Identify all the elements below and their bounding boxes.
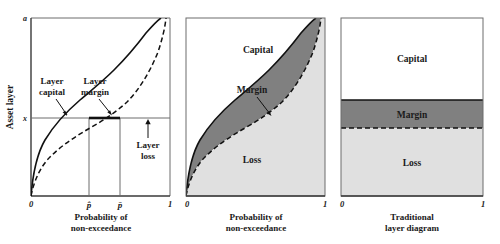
panel1-y-tick-a: a [23,14,27,23]
panel1-annot-layer-loss-line2: loss [141,151,156,161]
panel1-y-axis-label: Asset layer [5,84,15,129]
panel2-label-capital: Capital [243,45,273,55]
panel1-annot-layer-margin-line2: margin [81,87,109,97]
panel1-annot-layer-capital-line2: capital [39,87,65,97]
panel1-x-tick-phat: p̂ [86,200,92,210]
panel1-x-axis-label-line1: Probability of [74,212,128,222]
three-panel-layer-figure: Asset layer a x 0 p̂ p̄ 1 Probability of… [0,0,500,244]
panel1-annot-layer-capital-line1: Layer [41,76,64,86]
panel2-x-axis-label-line1: Probability of [229,212,283,222]
panel2-x-axis-label-line2: non-exceedance [226,223,287,233]
panel3-x-tick-1: 1 [481,199,485,209]
panel2-label-margin: Margin [237,85,268,95]
panel1-y-tick-x: x [22,114,27,123]
panel3-x-axis-label-line1: Traditional [390,212,434,222]
panel2-x-tick-1: 1 [323,199,327,209]
panel2-label-loss: Loss [243,155,262,165]
panel1-x-tick-1: 1 [168,199,172,209]
panel1-x-axis-label-line2: non-exceedance [71,223,132,233]
panel3-x-axis-label-line2: layer diagram [385,223,440,233]
panel1-annot-layer-margin-line1: Layer [84,76,107,86]
panel3-label-margin: Margin [397,110,428,120]
panel3-label-capital: Capital [397,54,427,64]
panel1-annot-layer-loss-line1: Layer [137,140,160,150]
figure-canvas: Asset layer a x 0 p̂ p̄ 1 Probability of… [0,0,500,244]
panel1-x-tick-pbar: p̄ [117,200,123,210]
panel3-label-loss: Loss [403,158,422,168]
